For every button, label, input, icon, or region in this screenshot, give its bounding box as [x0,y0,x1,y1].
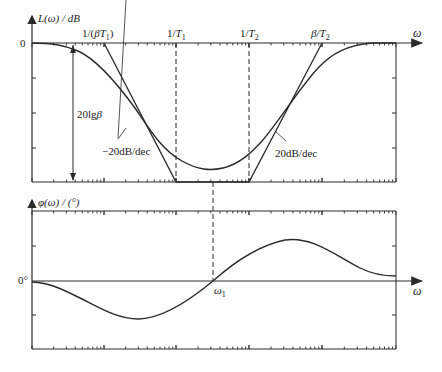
bode-diagram: L(ω) / dB 0 ω 1/(βT1) 1/T1 1/T2 β/T2 20l… [0,0,442,372]
corner-label-1-over-T2: 1/T2 [240,27,259,42]
phase-x-label: ω [413,284,421,298]
slope-left-leader [118,0,126,138]
phase-y-label: φ(ω) / (°) [38,196,80,209]
magnitude-zero-label: 0 [20,37,26,49]
magnitude-y-label: L(ω) / dB [37,12,80,25]
magnitude-curve [32,43,396,170]
phase-plot: φ(ω) / (°) 0° ω ω1 [18,182,422,349]
magnitude-x-label: ω [413,26,421,40]
phase-curve [32,239,396,319]
phase-zero-label: 0° [18,274,28,286]
magnitude-asymptote [104,43,322,182]
slope-left-label: −20dB/dec [102,145,150,157]
slope-right-label: 20dB/dec [275,147,317,159]
depth-annotation: 20lgβ [77,108,103,120]
corner-label-beta-over-T2: β/T2 [310,27,330,42]
omega1-label: ω1 [214,284,226,299]
slope-right-leader-line [275,131,286,141]
slope-left-leader-line [118,128,126,139]
magnitude-plot: L(ω) / dB 0 ω 1/(βT1) 1/T1 1/T2 β/T2 20l… [20,0,422,182]
corner-label-1-over-beta-T1: 1/(βT1) [82,27,114,42]
corner-label-1-over-T1: 1/T1 [167,27,186,42]
